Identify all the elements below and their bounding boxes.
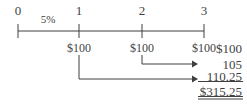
cash-flow-period-2: $100 — [130, 42, 154, 54]
period-label-3: 3 — [201, 4, 208, 17]
arrowhead-period-1 — [192, 76, 198, 83]
period-label-2: 2 — [139, 4, 146, 17]
compound-arrow-period-1 — [79, 55, 192, 79]
interest-rate-label: 5% — [41, 14, 56, 25]
sum-total: $315.25 — [200, 85, 242, 98]
arrowhead-period-2 — [192, 61, 198, 68]
sum-item-principal: $100 — [216, 42, 242, 55]
sum-item-two-periods: 110.25 — [207, 70, 242, 83]
period-label-0: 0 — [15, 4, 22, 17]
compound-arrow-period-2 — [142, 55, 192, 64]
period-label-1: 1 — [76, 4, 83, 17]
cash-flow-period-1: $100 — [67, 42, 91, 54]
timeline-figure: 0 1 2 3 5% $100 $100 $100 $100 105 110.2… — [0, 0, 247, 106]
cash-flow-period-3: $100 — [192, 42, 216, 54]
